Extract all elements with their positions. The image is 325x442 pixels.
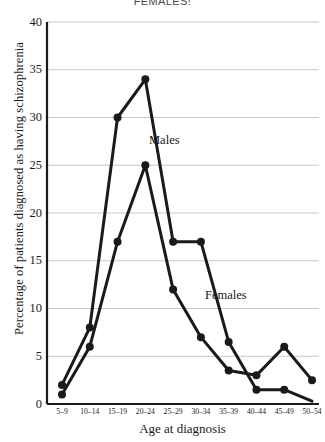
data-point <box>280 343 288 351</box>
series-line-males <box>62 79 312 401</box>
data-point <box>58 381 66 389</box>
x-tick-label: 50–54 <box>296 408 325 416</box>
y-tick-label: 20 <box>16 207 42 220</box>
plot-area <box>0 0 325 442</box>
y-tick-label: 0 <box>16 398 42 411</box>
data-point <box>197 238 205 246</box>
data-point <box>280 386 288 394</box>
data-point <box>169 238 177 246</box>
data-point <box>141 161 149 169</box>
series-label-males: Males <box>149 133 180 148</box>
y-tick-label: 5 <box>16 350 42 363</box>
y-tick-label: 25 <box>16 159 42 172</box>
data-point <box>114 114 122 122</box>
series-markers <box>58 75 316 398</box>
data-point <box>308 376 316 384</box>
data-point <box>197 333 205 341</box>
data-point <box>252 386 260 394</box>
chart-figure: FEMALES! Percentage of patients diagnose… <box>0 0 325 442</box>
data-point <box>86 343 94 351</box>
data-point <box>169 285 177 293</box>
data-point <box>225 338 233 346</box>
y-tick-label: 30 <box>16 111 42 124</box>
data-point <box>114 238 122 246</box>
data-point <box>58 390 66 398</box>
series-line-females <box>62 165 312 394</box>
data-point <box>225 367 233 375</box>
series-label-females: Females <box>205 288 247 303</box>
y-tick-label: 10 <box>16 302 42 315</box>
data-point <box>252 371 260 379</box>
y-tick-label: 40 <box>16 16 42 29</box>
y-tick-label: 35 <box>16 63 42 76</box>
data-point <box>141 75 149 83</box>
series-lines <box>62 79 312 401</box>
x-axis-title: Age at diagnosis <box>40 421 325 437</box>
data-point <box>86 324 94 332</box>
y-tick-label: 15 <box>16 254 42 267</box>
